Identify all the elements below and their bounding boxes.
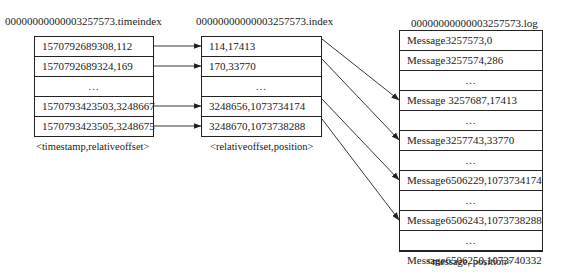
index-table: 114,17413 170,33770 … 3248656,1073734174… xyxy=(201,36,322,137)
timeindex-row-ellipsis: … xyxy=(35,77,153,97)
log-row: Message3257743,33770 xyxy=(400,131,542,151)
index-row: 3248656,1073734174 xyxy=(202,97,321,117)
log-row: Message6506229,1073734174 xyxy=(400,171,542,191)
index-row: 114,17413 xyxy=(202,37,321,57)
timeindex-row: 1570793423503,3248667 xyxy=(35,97,153,117)
index-title: 00000000000003257573.index xyxy=(196,15,333,27)
log-table: Message3257573,0 Message3257574,286 … Me… xyxy=(399,30,543,252)
log-row: Message3257573,0 xyxy=(400,31,542,51)
log-row-ellipsis: … xyxy=(400,151,542,171)
timeindex-table: 1570792689308,112 1570792689324,169 … 15… xyxy=(34,36,154,137)
log-row-ellipsis: … xyxy=(400,71,542,91)
log-row-ellipsis: … xyxy=(400,111,542,131)
index-row: 3248670,1073738288 xyxy=(202,117,321,137)
index-caption: <relativeoffset,position> xyxy=(210,141,314,152)
index-row-ellipsis: … xyxy=(202,77,321,97)
log-row: Message3257574,286 xyxy=(400,51,542,71)
log-title: 00000000000003257573.log xyxy=(411,17,538,29)
timeindex-row: 1570793423505,3248675 xyxy=(35,117,153,137)
log-row: Message 3257687,17413 xyxy=(400,91,542,111)
index-to-log-arrow xyxy=(322,119,399,220)
timeindex-row: 1570792689308,112 xyxy=(35,37,153,57)
log-row: Message6506243,1073738288 xyxy=(400,211,542,231)
log-row-ellipsis: … xyxy=(400,231,542,251)
index-to-log-arrow xyxy=(322,59,399,140)
timeindex-row: 1570792689324,169 xyxy=(35,57,153,77)
index-to-log-arrow xyxy=(322,99,399,180)
log-row-ellipsis: … xyxy=(400,191,542,211)
index-to-log-arrow xyxy=(322,39,399,100)
log-caption: <message, position> xyxy=(426,256,513,267)
timeindex-title: 00000000000003257573.timeindex xyxy=(5,15,162,27)
timeindex-caption: <timestamp,relativeoffset> xyxy=(36,141,149,152)
index-row: 170,33770 xyxy=(202,57,321,77)
